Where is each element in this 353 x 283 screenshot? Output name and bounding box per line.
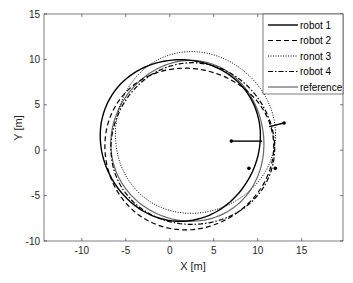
- y-tick-label: -10: [26, 236, 41, 247]
- x-tick-label: 15: [296, 245, 308, 256]
- x-tick-label: 0: [167, 245, 173, 256]
- y-tick-label: 5: [34, 99, 40, 110]
- start-marker: [247, 167, 251, 171]
- legend: robot 1robot 2ronot 3robot 4reference: [263, 14, 343, 94]
- x-tick-label: 5: [211, 245, 217, 256]
- legend-label: robot 1: [300, 20, 332, 31]
- y-tick-label: 15: [29, 9, 41, 20]
- trajectory-chart: -10-5051015-10-5051015 X [m] Y [m] robot…: [0, 0, 353, 283]
- y-tick-label: -5: [31, 190, 40, 201]
- x-axis-label: X [m]: [180, 260, 206, 272]
- y-axis-label: Y [m]: [12, 115, 24, 140]
- legend-label: robot 4: [300, 66, 332, 77]
- legend-label: ronot 3: [300, 51, 332, 62]
- start-marker: [273, 167, 277, 171]
- x-tick-label: 10: [252, 245, 264, 256]
- start-marker: [282, 121, 286, 125]
- start-marker: [230, 139, 234, 143]
- x-tick-label: -5: [121, 245, 130, 256]
- legend-label: robot 2: [300, 35, 332, 46]
- x-tick-label: -10: [75, 245, 90, 256]
- y-tick-label: 0: [34, 145, 40, 156]
- legend-label: reference: [300, 82, 343, 93]
- y-tick-label: 10: [29, 54, 41, 65]
